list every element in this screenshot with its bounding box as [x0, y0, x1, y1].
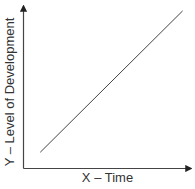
line-chart	[0, 0, 195, 189]
development-trend-line	[40, 11, 182, 152]
x-axis-label: X – Time	[0, 170, 195, 186]
y-axis-label: Y – Level of Development	[2, 18, 18, 167]
